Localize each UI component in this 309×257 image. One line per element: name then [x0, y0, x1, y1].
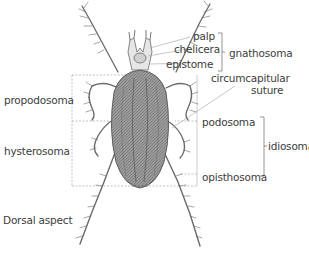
label-hysterosoma: hysterosoma	[4, 145, 70, 157]
label-idiosoma: idiosoma	[268, 140, 309, 152]
label-opisthosoma: opisthosoma	[202, 171, 267, 183]
label-chelicera: chelicera	[174, 43, 220, 55]
label-gnathosoma: gnathosoma	[229, 47, 293, 59]
label-suture: suture	[251, 84, 283, 96]
label-circumcapitular: circumcapitular	[211, 72, 290, 84]
idiosoma-body	[111, 70, 168, 188]
label-propodosoma: propodosoma	[4, 94, 74, 106]
label-podosoma: podosoma	[202, 116, 255, 128]
label-epistome: epistome	[166, 58, 213, 70]
label-palp: palp	[193, 30, 215, 42]
gnathosoma-shape	[128, 30, 152, 70]
label-dorsal-aspect: Dorsal aspect	[3, 214, 72, 226]
